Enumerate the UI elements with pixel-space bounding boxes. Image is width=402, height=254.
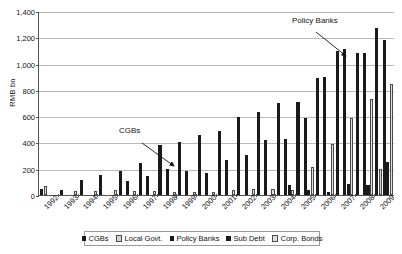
x-tick-mark bbox=[275, 194, 276, 197]
legend-item: Sub Debt bbox=[226, 234, 264, 243]
bar-group bbox=[78, 12, 98, 195]
x-tick: 2003 bbox=[256, 197, 276, 227]
legend-item: Local Govt. bbox=[116, 234, 163, 243]
bar bbox=[264, 140, 267, 195]
bar bbox=[198, 135, 201, 195]
bar-group bbox=[256, 12, 276, 195]
y-tick-label: 0 bbox=[31, 192, 35, 201]
bar bbox=[205, 173, 208, 195]
bar bbox=[44, 186, 47, 195]
cgbs-annotation-label: CGBs bbox=[119, 126, 140, 135]
x-tick: 1996 bbox=[117, 197, 137, 227]
legend-label: Sub Debt bbox=[233, 234, 264, 243]
bar-group bbox=[98, 12, 118, 195]
bar bbox=[370, 99, 373, 195]
bar bbox=[237, 117, 240, 195]
x-tick-mark bbox=[97, 194, 98, 197]
bar bbox=[218, 131, 221, 195]
bar-group bbox=[335, 12, 355, 195]
bar bbox=[126, 181, 129, 195]
y-tick-label: 1,400 bbox=[16, 8, 35, 17]
legend-item: Corp. Bonds bbox=[272, 234, 323, 243]
legend-item: CGBs bbox=[82, 234, 109, 243]
bar bbox=[296, 102, 299, 195]
bar-group bbox=[216, 12, 236, 195]
bar bbox=[245, 155, 248, 195]
bar bbox=[390, 84, 393, 195]
x-tick-mark bbox=[78, 194, 79, 197]
bar bbox=[60, 190, 63, 195]
bar-group bbox=[276, 12, 296, 195]
y-tick-label: 200 bbox=[22, 165, 35, 174]
legend-swatch-icon bbox=[272, 235, 279, 242]
bar bbox=[336, 51, 339, 195]
x-tick-mark bbox=[256, 194, 257, 197]
bar-group bbox=[177, 12, 197, 195]
bond-issuance-bar-chart: RMB bn 02004006008001,0001,2001,400 1992… bbox=[0, 0, 402, 254]
x-tick: 2008 bbox=[355, 197, 375, 227]
x-tick-mark bbox=[157, 194, 158, 197]
x-tick: 2005 bbox=[295, 197, 315, 227]
x-tick-mark bbox=[236, 194, 237, 197]
bar bbox=[80, 180, 83, 195]
bar bbox=[158, 145, 161, 195]
x-tick-mark bbox=[176, 194, 177, 197]
x-tick: 1999 bbox=[176, 197, 196, 227]
bar-group bbox=[355, 12, 375, 195]
bar-group bbox=[295, 12, 315, 195]
bar bbox=[225, 160, 228, 195]
bar-group bbox=[39, 12, 59, 195]
chart-legend: CGBsLocal Govt.Policy BanksSub DebtCorp.… bbox=[84, 231, 320, 246]
x-tick-mark bbox=[38, 194, 39, 197]
bar bbox=[363, 53, 366, 195]
bar-groups bbox=[39, 12, 394, 195]
x-tick-mark bbox=[117, 194, 118, 197]
bar bbox=[166, 169, 169, 195]
bar bbox=[185, 171, 188, 195]
x-tick: 2006 bbox=[315, 197, 335, 227]
y-tick-label: 400 bbox=[22, 139, 35, 148]
x-tick: 2009 bbox=[374, 197, 394, 227]
bar bbox=[139, 163, 142, 195]
x-tick-mark bbox=[295, 194, 296, 197]
x-tick: 1995 bbox=[97, 197, 117, 227]
y-axis-title: RMB bn bbox=[8, 63, 17, 123]
x-axis-labels: 1992199319941995199619971998199920002001… bbox=[38, 197, 394, 227]
x-tick-mark bbox=[374, 194, 375, 197]
bar bbox=[323, 77, 326, 195]
plot-area: 02004006008001,0001,2001,400 bbox=[38, 12, 394, 196]
legend-swatch-icon bbox=[226, 236, 231, 241]
x-tick: 1994 bbox=[78, 197, 98, 227]
legend-label: CGBs bbox=[89, 234, 109, 243]
legend-swatch-icon bbox=[116, 235, 123, 242]
legend-label: Corp. Bonds bbox=[281, 234, 323, 243]
x-tick: 2004 bbox=[275, 197, 295, 227]
bar bbox=[277, 103, 280, 195]
bar-group bbox=[374, 12, 394, 195]
legend-swatch-icon bbox=[82, 236, 87, 241]
x-tick-mark bbox=[315, 194, 316, 197]
bar bbox=[146, 176, 149, 195]
bar bbox=[311, 167, 314, 195]
bar-group bbox=[138, 12, 158, 195]
bar-group bbox=[118, 12, 138, 195]
x-tick-mark bbox=[355, 194, 356, 197]
bar-group bbox=[236, 12, 256, 195]
x-tick-mark bbox=[216, 194, 217, 197]
bar bbox=[178, 142, 181, 195]
x-tick: 1997 bbox=[137, 197, 157, 227]
bar bbox=[331, 144, 334, 195]
bar-group bbox=[315, 12, 335, 195]
x-tick: 2002 bbox=[236, 197, 256, 227]
legend-item: Policy Banks bbox=[170, 234, 220, 243]
x-tick: 1998 bbox=[157, 197, 177, 227]
x-tick: 1993 bbox=[58, 197, 78, 227]
legend-label: Local Govt. bbox=[125, 234, 163, 243]
x-tick: 2000 bbox=[196, 197, 216, 227]
bar bbox=[99, 175, 102, 195]
y-tick-label: 1,200 bbox=[16, 34, 35, 43]
x-tick: 2001 bbox=[216, 197, 236, 227]
bar bbox=[316, 78, 319, 195]
bar-group bbox=[197, 12, 217, 195]
x-tick: 1992 bbox=[38, 197, 58, 227]
